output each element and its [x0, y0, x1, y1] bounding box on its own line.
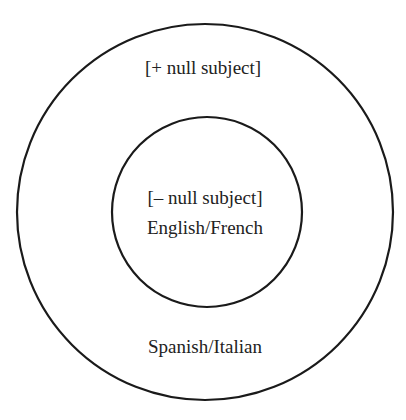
inner-circle	[112, 117, 302, 307]
inner-set-label: [– null subject]	[2, 187, 406, 209]
outer-languages-label: Spanish/Italian	[2, 336, 406, 358]
inner-languages-label: English/French	[2, 217, 406, 239]
outer-set-label: [+ null subject]	[0, 57, 406, 79]
